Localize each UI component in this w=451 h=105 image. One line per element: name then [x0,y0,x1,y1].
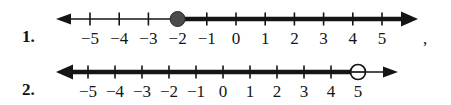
tick-label: 2 [290,29,299,49]
right-arrowhead [383,67,398,78]
closed-dot-marker [170,12,185,27]
tick-label: 5 [354,82,363,102]
tick-label: 1 [246,82,255,102]
tick-label: −4 [110,29,128,49]
tick-label: −3 [133,82,151,102]
tick-label: 4 [327,82,336,102]
tick-label: −5 [81,29,99,49]
trailing-comma: , [423,29,427,49]
tick-label: 3 [319,29,328,49]
tick-label: −1 [187,82,205,102]
tick-label: −2 [160,82,178,102]
tick-label: −2 [169,29,187,49]
tick-label: −5 [79,82,97,102]
tick-label: −4 [106,82,124,102]
number-line-2-tick-labels: −5−4−3−2−1012345 [0,82,451,104]
tick-label: 3 [300,82,309,102]
tick-label: −1 [198,29,216,49]
tick-label: −3 [139,29,157,49]
number-line-1-tick-labels: −5−4−3−2−1012345 [0,29,451,51]
tick-label: 0 [219,82,228,102]
problem-2: 2. −5−4−3−2−1012345 [0,53,451,105]
left-arrowhead [56,65,73,80]
right-arrowhead [401,12,418,27]
tick-label: 1 [261,29,270,49]
tick-label: 4 [349,29,358,49]
tick-label: 0 [232,29,241,49]
left-arrowhead [56,14,71,25]
tick-label: 5 [378,29,387,49]
problem-1: 1. −5−4−3−2−1012345 , [0,0,451,53]
tick-label: 2 [273,82,282,102]
